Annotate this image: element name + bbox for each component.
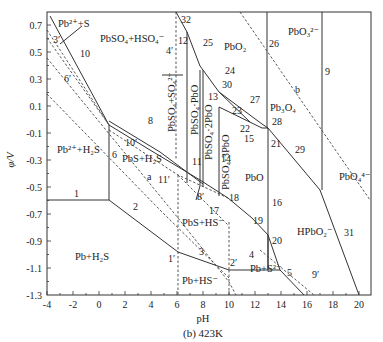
y-tick-label: -0.9	[26, 236, 42, 247]
x-tick-label: -2	[69, 299, 77, 310]
line-label: 6′	[64, 73, 71, 84]
x-tick-label: 6	[175, 299, 180, 310]
region-label: Pb+H₂S	[75, 251, 109, 262]
region-label: Pb+S²⁻	[250, 263, 282, 274]
line-label: 4′	[166, 45, 173, 56]
y-tick-label: 0.3	[30, 74, 43, 85]
line-label: 3	[199, 246, 204, 257]
x-tick-label: 4	[149, 299, 154, 310]
line-label: 18	[229, 192, 239, 203]
line-label: 1	[74, 188, 79, 199]
region-label: Pb+HS⁻	[182, 275, 218, 286]
line-label: 3′	[53, 34, 60, 45]
y-tick-label: 0.5	[30, 47, 43, 58]
region-label: PbS+H₂S	[122, 153, 162, 164]
line-label: 5	[287, 267, 292, 278]
region-label: PbO₃²⁻	[288, 26, 319, 37]
line-label: 11	[192, 156, 202, 167]
y-tick-label: 0.1	[30, 101, 43, 112]
line-label: 26	[269, 38, 279, 49]
x-tick-label: 0	[97, 299, 102, 310]
x-tick-label: 2	[123, 299, 128, 310]
x-tick-label: 14	[276, 299, 286, 310]
x-tick-label: 12	[250, 299, 260, 310]
region-label: PbSO₄·PbO	[189, 84, 200, 135]
line-label: 32	[181, 14, 191, 25]
region-label: PbSO₄+HSO₄⁻	[100, 33, 164, 44]
line-label: 12	[178, 35, 188, 46]
region-label: PbO	[245, 172, 264, 183]
line-label: 4	[249, 249, 254, 260]
region-label: Pb²⁺+H₂S	[57, 144, 100, 155]
line-label: 2′	[230, 257, 237, 268]
x-axis: -4 -2 0 2 4 6 8 10 12 14 16 18 20 pH (b)…	[43, 291, 364, 340]
y-axis-label: φ/V	[5, 151, 16, 168]
line-label: 14	[221, 153, 231, 164]
line-label: 17	[209, 205, 219, 216]
line-label: 8′	[197, 191, 204, 202]
figure-caption: (b) 423K	[183, 327, 223, 340]
y-tick-label: -0.3	[26, 155, 42, 166]
line-label: 9	[325, 66, 330, 77]
line-label: 15	[244, 133, 254, 144]
line-label: 21	[271, 138, 281, 149]
line-label: 22	[240, 123, 250, 134]
line-label: 20	[272, 235, 282, 246]
line-label: 13	[208, 91, 218, 102]
y-axis: 0.7 0.5 0.3 0.1 -0.1 -0.3 -0.5 -0.7 -0.9…	[5, 20, 51, 301]
x-tick-label: 18	[328, 299, 338, 310]
line-label: 11′	[158, 174, 170, 185]
region-label: Pb₃O₄	[270, 102, 296, 113]
y-tick-label: -0.7	[26, 209, 42, 220]
region-label: HPbO₂⁻	[297, 226, 332, 237]
line-label: 30	[222, 79, 232, 90]
pourbaix-diagram: 0.7 0.5 0.3 0.1 -0.1 -0.3 -0.5 -0.7 -0.9…	[0, 0, 383, 342]
line-label: a	[147, 171, 152, 182]
line-label: 27	[250, 94, 260, 105]
region-label: PbSO₄+SO₄²⁻	[166, 72, 177, 132]
x-tick-label: 8	[201, 299, 206, 310]
line-label: 10′	[125, 137, 137, 148]
y-tick-label: -1.3	[26, 290, 42, 301]
line-label: 8	[148, 115, 153, 126]
x-tick-label: 20	[354, 299, 364, 310]
line-label: 1′	[168, 253, 175, 264]
line-label: 24	[225, 65, 235, 76]
line-label: 16	[272, 197, 282, 208]
y-tick-label: -0.1	[26, 128, 42, 139]
line-label: 19	[253, 215, 263, 226]
line-label: 10	[80, 48, 90, 59]
region-label: PbO₂	[224, 41, 247, 52]
region-label: Pb²⁺+S	[58, 18, 90, 29]
y-tick-label: 0.7	[30, 20, 43, 31]
line-label: 23	[232, 105, 242, 116]
x-tick-label: 10	[224, 299, 234, 310]
line-label: b	[295, 84, 300, 95]
line-label: 31	[344, 227, 354, 238]
line-label: 6	[112, 149, 117, 160]
region-label: PbS+HS⁻	[182, 217, 224, 228]
x-tick-label: 16	[302, 299, 312, 310]
line-label: 2	[133, 201, 138, 212]
line-label: 25	[203, 37, 213, 48]
line-label: 9′	[312, 269, 319, 280]
y-tick-label: -1.1	[26, 263, 42, 274]
line-label: 28	[272, 116, 282, 127]
region-label: PbSO₄·2PbO	[203, 104, 214, 160]
line-label: 29	[295, 144, 305, 155]
region-label: PbO₄⁴⁻	[339, 171, 371, 182]
x-axis-label: pH	[197, 313, 210, 324]
x-tick-label: -4	[43, 299, 51, 310]
y-tick-label: -0.5	[26, 182, 42, 193]
